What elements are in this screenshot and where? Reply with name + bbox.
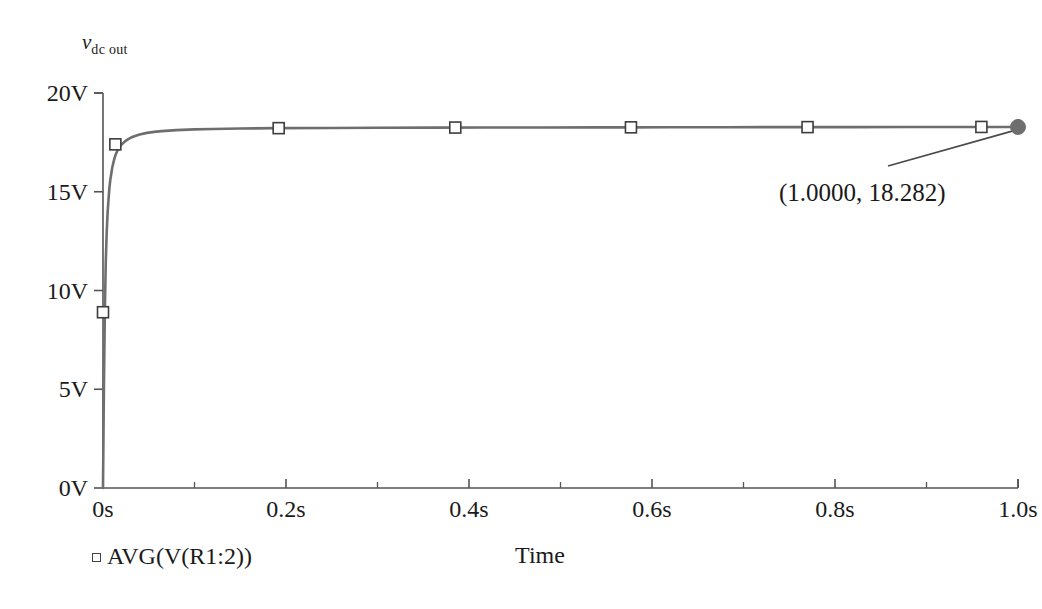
x-tick-label: 0.8s [815,497,854,521]
cursor-point-marker [1011,119,1026,134]
y-axis-title-subscript: dc out [91,42,127,57]
series-data-marker [625,122,636,133]
y-tick-label: 10V [0,279,88,303]
x-tick-label: 0s [92,497,113,521]
series-data-marker [273,123,284,134]
legend: AVG(V(R1:2)) [92,543,252,570]
x-tick-label: 0.6s [632,497,671,521]
series-data-marker [98,307,109,318]
plot-canvas [0,0,1042,609]
axes-group [94,93,1018,488]
series-group [98,121,1019,488]
y-axis-title: vdc out [82,32,128,57]
y-tick-label: 15V [0,180,88,204]
cursor-annotation-label: (1.0000, 18.282) [779,180,946,205]
series-data-marker [450,122,461,133]
cursor-leader-line [888,131,1013,166]
legend-label: AVG(V(R1:2)) [107,543,252,570]
x-axis-title: Time [515,543,565,567]
y-tick-label: 5V [0,377,88,401]
x-tick-label: 1.0s [998,497,1037,521]
chart-container: vdc out 0V5V10V15V20V 0s0.2s0.4s0.6s0.8s… [0,0,1042,609]
series-data-marker [802,122,813,133]
series-data-marker [976,121,987,132]
y-tick-label: 0V [0,476,88,500]
y-tick-label: 20V [0,81,88,105]
y-axis-title-symbol: v [82,30,91,54]
series-data-marker [110,139,121,150]
legend-marker-icon [92,553,101,562]
x-tick-label: 0.2s [266,497,305,521]
x-tick-label: 0.4s [449,497,488,521]
